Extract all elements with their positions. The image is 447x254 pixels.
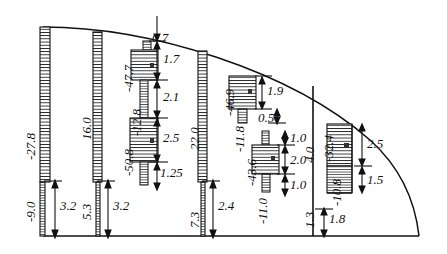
station-label-1: -27.8 [24,133,37,160]
station-label-10: -46.9 [223,89,236,116]
station-label-2: -9.0 [24,201,37,222]
dimension-label-3-2-b: 3.2 [113,199,129,212]
station-label-12: -43.6 [245,159,258,186]
station-label-3: 16.0 [80,117,93,140]
dimension-label-3-2-a: 3.2 [60,199,76,212]
station-label-5: -47.7 [122,65,135,92]
dimension-label-0-7: 0.7 [152,31,168,44]
station-label-4: 5.3 [80,204,93,220]
figure-canvas: -27.8 -9.0 16.0 5.3 -47.7 -12.8 -50.8 22… [0,0,447,254]
dimension-label-1-7: 1.7 [163,52,179,65]
station-label-11: -11.8 [233,126,246,152]
dimension-label-1-0-a: 1.0 [290,131,306,144]
dimension-label-2-5-left: 2.5 [163,131,179,144]
station-label-13: -11.0 [256,198,269,224]
station-label-7: -50.8 [122,149,135,176]
dimension-label-0-5: 0.5 [258,111,274,124]
blade-row-2 [93,32,102,236]
diagram-svg [0,0,447,254]
dimension-label-2-5-right: 2.5 [367,137,383,150]
dimension-label-1-25: 1.25 [160,166,183,179]
dimension-label-2-4: 2.4 [218,199,234,212]
dimension-label-1-9: 1.9 [267,84,283,97]
dimension-label-2-0: 2.0 [290,153,306,166]
dimension-label-1-5: 1.5 [367,173,383,186]
station-label-8: 22.0 [188,127,201,150]
dimension-label-2-1: 2.1 [163,90,179,103]
station-label-15: 1.3 [303,212,316,228]
blade-row-1 [40,27,50,236]
station-label-9: 7.3 [188,212,201,228]
station-label-6: -12.8 [130,109,143,136]
dimension-label-1-0-b: 1.0 [290,178,306,191]
dimension-label-1-8: 1.8 [329,212,345,225]
station-label-16: -32.4 [322,135,335,162]
station-label-17: -10.8 [330,179,343,206]
